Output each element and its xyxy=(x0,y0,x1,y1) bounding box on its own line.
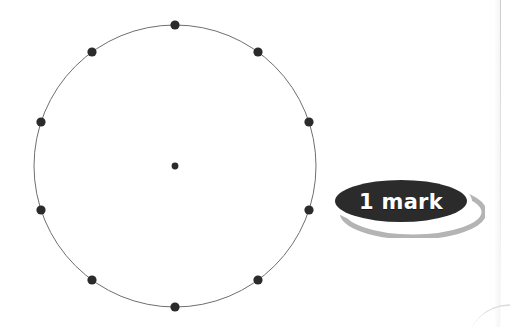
circle-point-p4 xyxy=(304,205,313,214)
circle-point-p7 xyxy=(87,275,96,284)
page-corner-artifact xyxy=(466,292,510,327)
circle-center-point xyxy=(172,163,179,170)
page-canvas: 1 mark xyxy=(0,0,510,327)
circle-point-p5 xyxy=(253,275,262,284)
circle-point-p2 xyxy=(253,47,262,56)
circle-point-p10 xyxy=(87,47,96,56)
circle-point-p3 xyxy=(304,117,313,126)
circle-diagram xyxy=(0,0,340,327)
page-edge-line xyxy=(500,0,501,327)
circle-point-p1 xyxy=(170,20,179,29)
circle-diagram-svg xyxy=(0,0,340,327)
circle-point-p8 xyxy=(36,205,45,214)
mark-badge: 1 mark xyxy=(330,176,485,238)
circle-point-p6 xyxy=(170,302,179,311)
mark-badge-fill xyxy=(335,180,467,222)
circle-point-p9 xyxy=(36,117,45,126)
mark-badge-shape xyxy=(330,176,485,238)
